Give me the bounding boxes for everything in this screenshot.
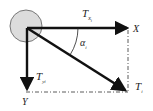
angle-arc bbox=[70, 28, 78, 55]
alpha-label: αi bbox=[80, 37, 87, 50]
tx-label: Txi bbox=[82, 7, 92, 23]
ti-label: Ti bbox=[135, 80, 143, 94]
x-axis-label: X bbox=[132, 23, 140, 34]
y-axis-label: Y bbox=[22, 96, 29, 107]
force-decomposition-diagram: Txi X αi Tyi Y Ti bbox=[0, 0, 153, 111]
ty-label: Tyi bbox=[36, 70, 46, 84]
